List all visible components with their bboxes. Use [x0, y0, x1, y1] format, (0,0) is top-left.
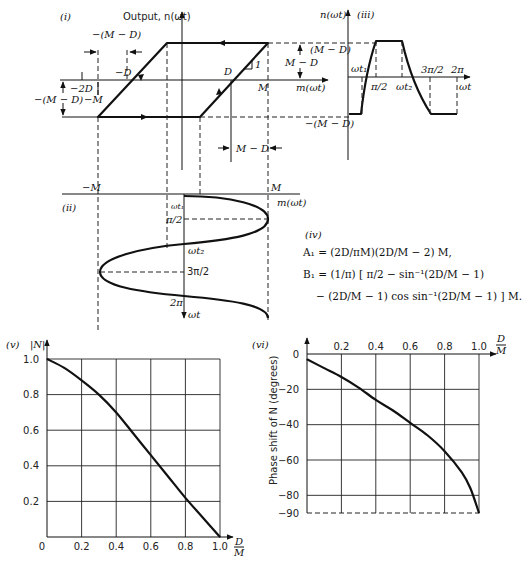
data-point	[219, 536, 220, 537]
data-point	[168, 476, 169, 477]
panel-ii-m: M	[270, 182, 282, 193]
panel-ii-label: (ii)	[62, 202, 76, 213]
data-point	[392, 410, 393, 411]
tick-2pi-ii: 2π	[169, 297, 183, 308]
x-tick-label: 0.4	[368, 341, 384, 352]
chart-vi-panel-label: (vi)	[252, 339, 269, 350]
label-m-minus-d-right: M − D	[284, 57, 318, 68]
y-tick-label: 0.6	[23, 425, 39, 436]
data-point	[324, 368, 325, 369]
label-neg-d: −D	[115, 67, 131, 78]
panel-ii-input-waveform: m(ωt) −M M (ii) ωt ωt₁ π/2 ωt₂ 3π/2 2π	[62, 182, 307, 320]
loop-arrow-up	[216, 88, 222, 95]
loop-arrow-right	[141, 114, 148, 120]
data-point	[427, 435, 428, 436]
panel-iii-y-axis-label: n(ωt)	[320, 9, 347, 20]
data-point	[470, 488, 471, 489]
panel-ii-x-axis-label: m(ωt)	[277, 197, 307, 208]
panel-i-hysteresis: (i) Output, n(ωt) m(ωt) 1	[34, 11, 378, 330]
panel-iv-label: (iv)	[305, 229, 322, 240]
y-tick-label: 0.8	[23, 389, 39, 400]
data-point	[341, 376, 342, 377]
label-bottom-level: −(M − D)	[305, 118, 354, 129]
data-point	[461, 472, 462, 473]
label-neg-m-minus-d-left: −(M − D)	[34, 94, 83, 105]
y-tick-label: −80	[278, 490, 299, 501]
x-tick-label: 1.0	[212, 541, 228, 552]
data-point	[64, 367, 65, 368]
y-tick-label: −40	[278, 419, 299, 430]
data-point	[410, 422, 411, 423]
y-tick-label: −20	[278, 384, 299, 395]
y-tick-label: −60	[278, 455, 299, 466]
data-point	[46, 358, 47, 359]
data-point	[116, 412, 117, 413]
data-point	[202, 517, 203, 518]
y-tick-label: 0	[293, 349, 299, 360]
y-tick-label: 0.4	[23, 460, 39, 471]
tick-3pi-2: 3π/2	[421, 64, 444, 75]
data-point	[358, 387, 359, 388]
x-tick-label: 0	[39, 541, 45, 552]
tick-wt1: ωt₁	[351, 63, 367, 74]
x-tick-label: 0.6	[143, 541, 159, 552]
equation-b1-line1: B₁ = (1/π) [ π/2 − sin⁻¹(2D/M − 1)	[303, 268, 484, 280]
equation-a1: A₁ = (2D/πM)(2D/M − 2) M,	[303, 246, 452, 258]
chart-v-ylabel: |N|	[30, 339, 46, 351]
chart-vi-xlabel-m: M	[495, 345, 507, 356]
label-neg-m: −M	[84, 94, 103, 105]
chart-v-magnitude: (v) |N| 00.20.40.60.81.00.20.40.60.81.0 …	[6, 339, 245, 558]
x-tick-label: 1.0	[471, 341, 487, 352]
label-neg-m-minus-d-top: −(M − D)	[92, 29, 141, 40]
x-tick-label: 0.8	[437, 341, 453, 352]
data-point	[185, 497, 186, 498]
x-tick-label: 0.4	[108, 541, 124, 552]
label-neg-2d: −2D	[70, 83, 93, 94]
x-tick-label: 0.8	[177, 541, 193, 552]
y-tick-label: 1.0	[23, 354, 39, 365]
equation-b1-line2: − (2D/M − 1) cos sin⁻¹(2D/M − 1) ] M.	[316, 290, 522, 302]
panel-iii-output-waveform: n(ωt) (iii) ωt ωt₁ π/2 ωt₂ 3π/2 2π	[320, 9, 472, 160]
data-point	[444, 451, 445, 452]
tick-3pi-2-ii: 3π/2	[187, 266, 209, 277]
data-point	[133, 433, 134, 434]
tick-wt2-ii: ωt₂	[188, 245, 204, 256]
panel-i-y-axis-label: Output, n(ωt)	[123, 11, 191, 22]
panel-ii-neg-m: −M	[82, 182, 101, 193]
panel-iii-label: (iii)	[357, 9, 374, 20]
tick-wt1-ii: ωt₁	[171, 202, 184, 211]
label-top-level: (M − D)	[310, 44, 351, 55]
chart-v-panel-label: (v)	[6, 339, 20, 350]
data-point	[375, 399, 376, 400]
panel-i-label: (i)	[60, 11, 71, 22]
label-m-minus-d-bottom: M − D	[235, 143, 269, 154]
chart-vi-series-line	[307, 359, 479, 513]
data-point	[150, 455, 151, 456]
data-point	[81, 380, 82, 381]
chart-vi-phase: (vi) Phase shift of N (degrees) 0.20.40.…	[252, 333, 507, 519]
tick-2pi: 2π	[450, 64, 464, 75]
y-tick-label: 0.2	[23, 496, 39, 507]
tick-pi-2: π/2	[370, 81, 387, 92]
tick-pi-2-ii: π/2	[165, 214, 182, 225]
x-tick-label: 0.2	[333, 341, 349, 352]
panel-ii-y-axis-label: ωt	[188, 309, 201, 320]
data-point	[98, 394, 99, 395]
panel-iii-x-axis-label: ωt	[459, 81, 472, 92]
chart-v-series-line	[47, 359, 220, 537]
loop-arrow-left	[218, 40, 225, 46]
x-tick-label: 0.6	[402, 341, 418, 352]
chart-v-xlabel-m: M	[233, 547, 245, 558]
tick-wt2: ωt₂	[396, 81, 412, 92]
label-m: M	[257, 82, 269, 93]
label-d: D	[223, 66, 232, 77]
chart-v-xlabel-d: D	[234, 536, 243, 547]
slope-label: 1	[255, 59, 261, 70]
panel-i-x-axis-label: m(ωt)	[296, 82, 326, 93]
y-tick-label: −90	[278, 508, 299, 519]
data-point	[306, 359, 307, 360]
data-point	[478, 512, 479, 513]
chart-vi-xlabel-d: D	[496, 333, 505, 344]
x-tick-label: 0.2	[74, 541, 90, 552]
